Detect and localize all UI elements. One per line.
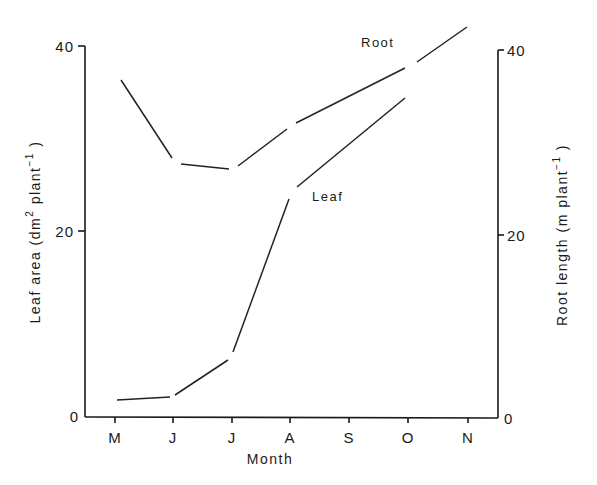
x-tick-label-s: S: [343, 429, 354, 446]
series-label-leaf: Leaf: [312, 189, 343, 204]
series-label-root: Root: [361, 35, 394, 50]
x-tick-label-o: O: [402, 429, 415, 446]
x-axis: M J J A S O N Month: [85, 417, 498, 467]
root-segment-2: [181, 164, 229, 169]
right-y-axis: 40 20 0 Root length (m plant−1 ): [498, 42, 570, 427]
leaf-segment-3: [233, 199, 289, 352]
left-tick-label-20: 20: [55, 223, 74, 240]
right-tick-label-40: 40: [507, 42, 526, 59]
right-tick-label-0: 0: [504, 410, 513, 427]
leaf-segment-4: [297, 98, 405, 187]
x-tick-label-m: M: [108, 429, 122, 446]
left-tick-label-0: 0: [70, 408, 79, 425]
right-tick-label-20: 20: [507, 227, 526, 244]
leaf-segment-1: [117, 397, 170, 400]
x-tick-label-a: A: [284, 429, 295, 446]
x-axis-line: [85, 417, 498, 418]
left-axis-title: Leaf area (dm2 plant−1 ): [24, 141, 43, 324]
series-leaf: Leaf: [117, 98, 405, 400]
root-segment-5: [417, 27, 467, 62]
root-segment-4: [296, 68, 405, 123]
x-tick-label-j1: J: [169, 429, 178, 446]
root-segment-1: [121, 80, 172, 158]
x-tick-label-j2: J: [228, 429, 237, 446]
root-segment-3: [238, 129, 287, 166]
leaf-segment-2: [175, 360, 228, 395]
left-y-axis: 40 20 0 Leaf area (dm2 plant−1 ): [24, 38, 85, 425]
x-axis-title: Month: [247, 451, 293, 467]
dual-axis-line-chart: 40 20 0 Leaf area (dm2 plant−1 ) M J J A…: [0, 0, 597, 485]
x-tick-label-n: N: [462, 429, 474, 446]
left-tick-label-40: 40: [55, 38, 74, 55]
right-axis-title: Root length (m plant−1 ): [551, 144, 570, 326]
series-root: Root: [121, 27, 467, 169]
